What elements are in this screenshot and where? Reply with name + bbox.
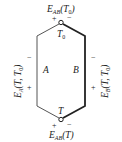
junction-top <box>59 20 63 24</box>
right-plus-sign: + <box>91 83 96 92</box>
emf-bottom-label: EAB(T) <box>48 130 74 141</box>
emf-a-label: EA(T, T0) <box>13 65 24 99</box>
conductor-b-label: B <box>73 65 79 75</box>
junction-bottom <box>59 117 63 121</box>
left-minus-sign: − <box>27 53 32 62</box>
top-plus-sign: + <box>52 14 57 23</box>
bottom-plus-sign: + <box>52 121 57 130</box>
left-plus-sign: + <box>27 83 32 92</box>
emf-b-label: EB(T, T0) <box>100 65 111 99</box>
junction-top-temp: T0 <box>57 29 65 40</box>
thermocouple-diagram: EAB(T0) + − T0 A B T + − EAB(T) − + − + … <box>0 0 122 142</box>
bottom-minus-sign: − <box>67 120 72 129</box>
top-minus-sign: − <box>67 13 72 22</box>
junction-bottom-temp: T <box>58 106 64 116</box>
right-minus-sign: − <box>91 53 96 62</box>
conductor-a-label: A <box>42 65 49 75</box>
